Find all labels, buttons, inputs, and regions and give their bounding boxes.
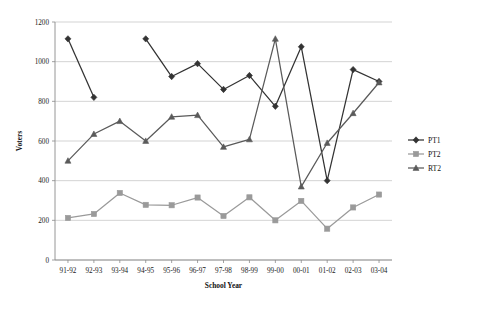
x-tick-label: 94-95 [137, 267, 154, 275]
y-tick-label: 1200 [35, 19, 50, 27]
data-point [65, 215, 70, 220]
legend-label-pt2: PT2 [428, 150, 441, 159]
x-tick-label: 00-01 [293, 267, 310, 275]
data-point [221, 213, 226, 218]
y-tick-label: 600 [38, 138, 49, 146]
legend: PT1PT2RT2 [408, 136, 441, 173]
x-tick-label: 96-97 [189, 267, 206, 275]
legend-label-rt2: RT2 [428, 164, 441, 173]
data-point [299, 198, 304, 203]
data-point [325, 226, 330, 231]
legend-label-pt1: PT1 [428, 136, 441, 145]
data-point [143, 202, 148, 207]
data-point [351, 205, 356, 210]
data-point [273, 218, 278, 223]
x-tick-label: 91-92 [60, 267, 77, 275]
data-point [413, 137, 419, 143]
x-axis-title: School Year [205, 281, 243, 290]
line-chart: 12001000800600400200091-9292-9393-9494-9… [0, 0, 480, 314]
y-axis-title: Voters [15, 131, 24, 151]
x-tick-label: 03-04 [371, 267, 388, 275]
y-tick-label: 200 [38, 217, 49, 225]
y-tick-label: 400 [38, 177, 49, 185]
y-tick-label: 800 [38, 98, 49, 106]
x-tick-label: 93-94 [111, 267, 128, 275]
x-tick-label: 01-02 [319, 267, 336, 275]
y-tick-label: 0 [45, 257, 49, 265]
chart-canvas: 12001000800600400200091-9292-9393-9494-9… [0, 0, 480, 314]
x-tick-label: 99-00 [267, 267, 284, 275]
x-tick-label: 98-99 [241, 267, 258, 275]
x-tick-label: 97-98 [215, 267, 232, 275]
data-point [169, 203, 174, 208]
x-tick-label: 92-93 [85, 267, 102, 275]
data-point [376, 192, 381, 197]
data-point [247, 195, 252, 200]
x-tick-label: 02-03 [345, 267, 362, 275]
data-point [195, 195, 200, 200]
data-point [91, 211, 96, 216]
y-tick-label: 1000 [35, 58, 50, 66]
data-point [413, 151, 418, 156]
data-point [117, 190, 122, 195]
x-tick-label: 95-96 [163, 267, 180, 275]
